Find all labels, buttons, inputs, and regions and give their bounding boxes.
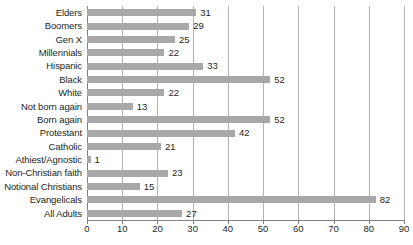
category-label: Not born again [0,100,85,113]
bar-value-label: 15 [144,182,155,192]
bar-row: 33 [87,60,404,73]
category-label: Notional Christians [0,180,85,193]
bar-value-label: 23 [172,168,183,178]
bar-row: 1 [87,153,404,166]
bar [87,103,133,110]
bar-value-label: 31 [200,8,211,18]
bar [87,9,196,16]
bar [87,63,203,70]
bar [87,196,376,203]
bar-value-label: 52 [274,115,285,125]
x-axis-tick-label: 50 [258,224,269,234]
plot-area: 3129252233522213524221123158227 [87,6,404,220]
gridline [334,6,335,220]
category-label: Catholic [0,140,85,153]
x-axis-line [87,220,404,221]
bar-row: 29 [87,19,404,32]
bar-row: 22 [87,86,404,99]
x-axis-tick-label: 80 [363,224,374,234]
category-label: Gen X [0,33,85,46]
category-label: Evangelicals [0,193,85,206]
x-axis-tick-label: 60 [293,224,304,234]
bar-row: 15 [87,180,404,193]
bar [87,76,270,83]
category-label: Hispanic [0,60,85,73]
bar-row: 31 [87,6,404,19]
x-axis-tick-label: 90 [399,224,410,234]
x-axis-tick-label: 0 [84,224,89,234]
bar [87,130,235,137]
bar-value-label: 33 [207,61,218,71]
gridline [193,6,194,220]
bar-value-label: 22 [168,48,179,58]
bar-value-label: 29 [193,21,204,31]
bar-rows: 3129252233522213524221123158227 [87,6,404,220]
bar [87,183,140,190]
category-label: Non-Christian faith [0,167,85,180]
bar-row: 22 [87,46,404,59]
x-axis-tick-label: 70 [328,224,339,234]
bar-row: 52 [87,113,404,126]
category-label: All Adults [0,207,85,220]
bar [87,210,182,217]
category-label: Born again [0,113,85,126]
bar-chart: EldersBoomersGen XMillennialsHispanicBla… [0,0,413,245]
gridline [298,6,299,220]
bar-row: 82 [87,193,404,206]
bar-row: 42 [87,126,404,139]
category-label: Boomers [0,19,85,32]
bar-row: 25 [87,33,404,46]
bar-row: 23 [87,167,404,180]
x-axis-tick-label: 10 [117,224,128,234]
bar [87,156,91,163]
gridline [369,6,370,220]
category-label: Black [0,73,85,86]
bar-row: 52 [87,73,404,86]
x-axis-tick-labels: 0102030405060708090 [87,224,404,238]
bar-value-label: 27 [186,209,197,219]
x-axis-tick-label: 40 [223,224,234,234]
bar [87,170,168,177]
bar [87,143,161,150]
category-label: Athiest/Agnostic [0,153,85,166]
x-axis-tick-label: 30 [187,224,198,234]
bar [87,89,164,96]
category-label: Elders [0,6,85,19]
bar-value-label: 52 [274,75,285,85]
bar-row: 21 [87,140,404,153]
bar-value-label: 22 [168,88,179,98]
category-label: White [0,86,85,99]
bar-value-label: 13 [137,102,148,112]
bar-value-label: 1 [95,155,100,165]
gridline [404,6,405,220]
bar-value-label: 42 [239,128,250,138]
x-axis-tick-label: 20 [152,224,163,234]
bar [87,23,189,30]
category-label: Protestant [0,126,85,139]
gridline [263,6,264,220]
category-label: Millennials [0,46,85,59]
bar-value-label: 21 [165,142,176,152]
bar-value-label: 82 [380,195,391,205]
bar-value-label: 25 [179,35,190,45]
bar [87,49,164,56]
category-axis-labels: EldersBoomersGen XMillennialsHispanicBla… [0,6,85,220]
bar-row: 27 [87,207,404,220]
gridline [228,6,229,220]
bar [87,36,175,43]
bar-row: 13 [87,100,404,113]
bar [87,116,270,123]
